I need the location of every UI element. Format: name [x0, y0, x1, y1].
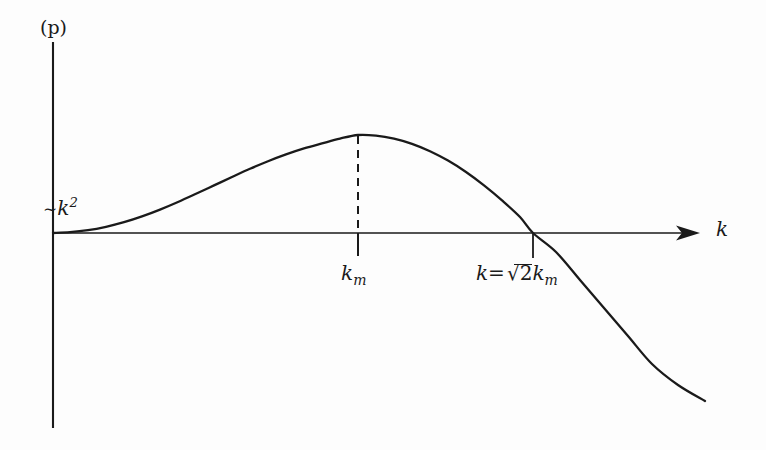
y-axis-label: (p) — [40, 18, 67, 37]
dispersion-plot — [0, 0, 766, 450]
figure-canvas: (p) ∼k2 k km k=√2km — [0, 0, 766, 450]
scaling-exponent: 2 — [69, 195, 77, 210]
scaling-base: k — [57, 196, 69, 220]
marginal-prefix: k= — [476, 261, 505, 285]
small-k-scaling-annotation: ∼k2 — [43, 196, 78, 218]
tilde-icon: ∼ — [43, 199, 57, 219]
square-root-icon: √2 — [505, 263, 532, 283]
x-axis-label-text: k — [716, 217, 728, 241]
growth-rate-curve — [53, 135, 705, 401]
marginal-subscript: m — [545, 272, 558, 288]
peak-label-subscript: m — [353, 272, 366, 288]
x-axis-label: k — [716, 219, 728, 239]
marginal-wavenumber-label: k=√2km — [476, 263, 558, 287]
peak-label-base: k — [341, 261, 353, 285]
radical-vinculum — [514, 264, 532, 265]
y-axis-label-text: (p) — [40, 16, 67, 38]
peak-wavenumber-label: km — [341, 263, 366, 287]
marginal-base: k — [532, 261, 544, 285]
